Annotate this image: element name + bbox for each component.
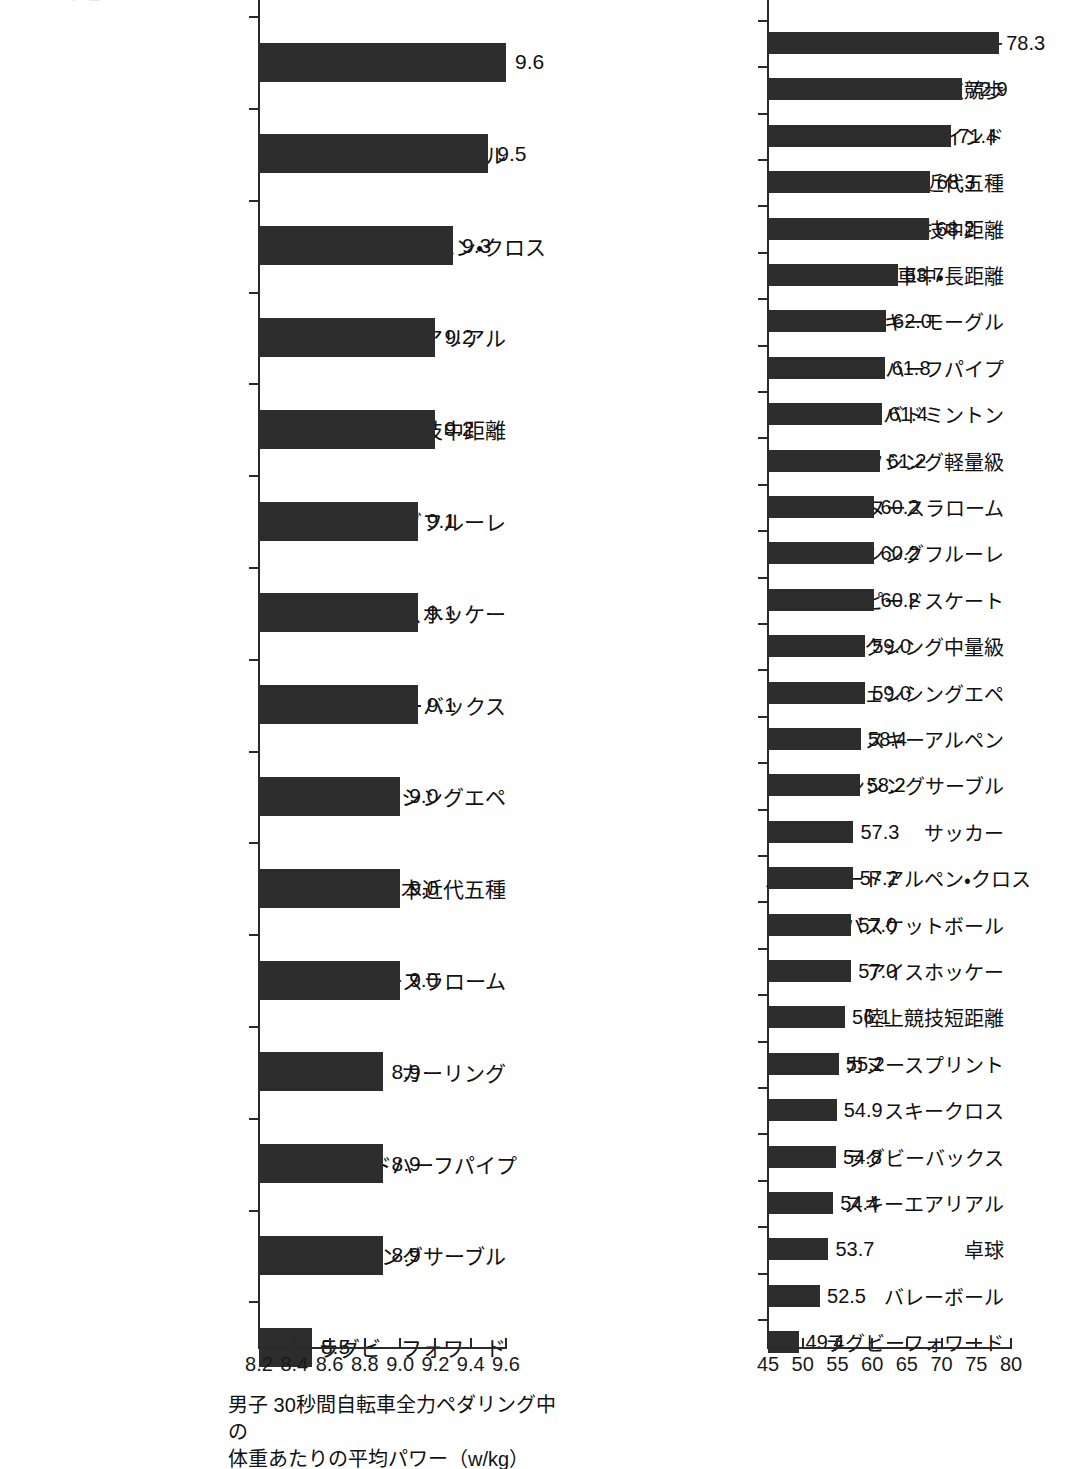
bar-value-label: 58.2 — [867, 774, 906, 797]
category-axis-tick — [249, 16, 258, 18]
category-axis-tick — [758, 113, 767, 115]
bar-value-label: 9.0 — [409, 876, 438, 900]
bar-value-label: 57.0 — [858, 913, 897, 936]
bar-value-label: 54.8 — [843, 1145, 882, 1168]
bar — [768, 403, 882, 425]
value-axis-tick-label: 80 — [1000, 1353, 1022, 1376]
value-axis-tick — [505, 1338, 507, 1347]
value-axis-tick — [364, 1338, 366, 1347]
bar-value-label: 68.3 — [937, 171, 976, 194]
category-axis-tick — [758, 298, 767, 300]
value-axis-tick-label: 55 — [826, 1353, 848, 1376]
bar-value-label: 54.9 — [844, 1099, 883, 1122]
category-axis-tick — [249, 567, 258, 569]
bar — [259, 1236, 383, 1275]
bar — [768, 32, 999, 54]
category-axis-tick — [249, 1301, 258, 1303]
bar-value-label: 53.7 — [835, 1238, 874, 1261]
category-axis-tick — [249, 1118, 258, 1120]
category-axis-tick — [758, 1133, 767, 1135]
bar-value-label: 8.9 — [392, 1060, 421, 1084]
value-axis-tick — [975, 1338, 977, 1347]
category-axis-tick — [758, 391, 767, 393]
bar-value-label: 60.2 — [881, 496, 920, 519]
value-axis-tick-label: 60 — [861, 1353, 883, 1376]
bar — [259, 685, 418, 724]
bar — [259, 1052, 383, 1091]
value-axis-tick-label: 9.2 — [422, 1353, 450, 1376]
category-axis-tick — [249, 475, 258, 477]
category-axis-tick — [758, 252, 767, 254]
category-axis-tick — [758, 1319, 767, 1321]
category-axis-tick — [249, 1210, 258, 1212]
bar — [259, 502, 418, 541]
bar-value-label: 72.9 — [969, 78, 1008, 101]
bar-value-label: 59.0 — [872, 681, 911, 704]
bar-value-label: 9.5 — [497, 142, 526, 166]
category-axis-tick — [249, 751, 258, 753]
cropped-text-remnant: — そのう — [32, 0, 128, 1]
bar-value-label: 63.7 — [905, 264, 944, 287]
value-axis-tick-label: 70 — [930, 1353, 952, 1376]
category-axis-tick — [249, 108, 258, 110]
bar-value-label: 78.3 — [1006, 32, 1045, 55]
value-axis-tick — [1010, 1338, 1012, 1347]
category-axis-tick — [249, 842, 258, 844]
bar — [768, 1006, 845, 1028]
bar-value-label: 52.5 — [827, 1284, 866, 1307]
bar — [768, 218, 929, 240]
bar — [768, 867, 853, 889]
bar — [259, 318, 435, 357]
value-axis-tick — [293, 1338, 295, 1347]
category-axis-tick — [758, 1087, 767, 1089]
bar — [768, 1053, 839, 1075]
category-axis-tick — [249, 1026, 258, 1028]
chart-caption-anaerobic-power: 男子 30秒間自転車全力ペダリング中の 体重あたりの平均パワー（w/kg） — [228, 1392, 560, 1469]
bar — [259, 869, 400, 908]
value-axis-tick — [470, 1338, 472, 1347]
category-axis-tick — [758, 809, 767, 811]
value-axis-tick — [767, 1338, 769, 1347]
bar — [768, 496, 874, 518]
category-axis-tick — [249, 200, 258, 202]
category-axis-tick — [249, 659, 258, 661]
value-axis-tick — [802, 1338, 804, 1347]
bar — [768, 728, 861, 750]
category-axis-tick — [758, 994, 767, 996]
bar — [768, 635, 865, 657]
category-axis-tick — [758, 205, 767, 207]
bar — [768, 310, 886, 332]
bar — [768, 960, 851, 982]
category-axis-tick — [758, 669, 767, 671]
value-axis-tick — [258, 1338, 260, 1347]
bar — [768, 542, 874, 564]
value-axis-line — [767, 1347, 1012, 1349]
bar-value-label: 58.4 — [868, 728, 907, 751]
value-axis-tick-label: 50 — [792, 1353, 814, 1376]
bar-value-label: 56.1 — [852, 1006, 891, 1029]
bar — [768, 1192, 833, 1214]
bar — [768, 1331, 799, 1353]
category-axis-tick — [758, 1180, 767, 1182]
category-axis-tick — [249, 383, 258, 385]
bar-value-label: 55.2 — [846, 1052, 885, 1075]
bar-value-label: 57.2 — [860, 867, 899, 890]
value-axis-line — [258, 1347, 507, 1349]
value-axis-tick-label: 8.2 — [245, 1353, 273, 1376]
bar — [768, 171, 930, 193]
bar — [768, 682, 865, 704]
bar — [768, 357, 885, 379]
bar — [768, 589, 874, 611]
category-axis-tick — [758, 484, 767, 486]
bar — [768, 1238, 828, 1260]
value-axis-tick-label: 45 — [757, 1353, 779, 1376]
category-axis-tick — [249, 934, 258, 936]
bar — [768, 78, 962, 100]
value-axis-tick-label: 8.8 — [351, 1353, 379, 1376]
bar-value-label: 8.9 — [392, 1243, 421, 1267]
value-axis-tick — [941, 1338, 943, 1347]
value-axis-tick — [836, 1338, 838, 1347]
bar — [259, 593, 418, 632]
category-axis-tick — [758, 530, 767, 532]
bar-value-label: 9.0 — [409, 784, 438, 808]
